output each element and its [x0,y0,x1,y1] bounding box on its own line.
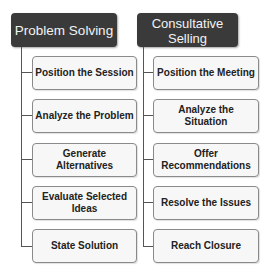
step-reach-closure: Reach Closure [153,229,259,263]
step-generate-alternatives: Generate Alternatives [32,143,137,177]
left-connector-trunk [21,47,22,246]
right-connector-trunk [143,47,144,246]
step-label: Generate Alternatives [35,148,134,172]
left-connector-branch [21,246,32,247]
right-connector-branch [143,115,153,116]
consultative-selling-header: Consultative Selling [137,13,238,47]
header-title-line-1: Consultative [152,16,224,31]
step-label: Analyze the Situation [156,104,256,128]
header-title: Problem Solving [15,23,113,38]
problem-solving-header: Problem Solving [11,13,117,47]
step-label: Reach Closure [171,240,241,252]
step-label: State Solution [51,240,118,252]
step-analyze-situation: Analyze the Situation [153,99,259,133]
step-label: Position the Meeting [157,67,255,79]
step-label: Position the Session [35,67,133,79]
left-connector-branch [21,72,32,73]
right-connector-branch [143,246,153,247]
step-label: Offer Recommendations [161,148,250,172]
left-connector-branch [21,115,32,116]
right-connector-branch [143,159,153,160]
step-position-meeting: Position the Meeting [153,56,259,90]
step-evaluate-ideas: Evaluate Selected Ideas [32,186,137,220]
step-position-session: Position the Session [32,56,137,90]
right-connector-branch [143,72,153,73]
step-label: Analyze the Problem [35,110,133,122]
step-label: Evaluate Selected Ideas [35,191,134,215]
step-state-solution: State Solution [32,229,137,263]
step-resolve-issues: Resolve the Issues [153,186,259,220]
step-offer-recommendations: Offer Recommendations [153,143,259,177]
left-connector-branch [21,202,32,203]
step-analyze-problem: Analyze the Problem [32,99,137,133]
header-title-line-2: Selling [152,31,224,46]
right-connector-branch [143,202,153,203]
left-connector-branch [21,159,32,160]
step-label: Resolve the Issues [161,197,251,209]
